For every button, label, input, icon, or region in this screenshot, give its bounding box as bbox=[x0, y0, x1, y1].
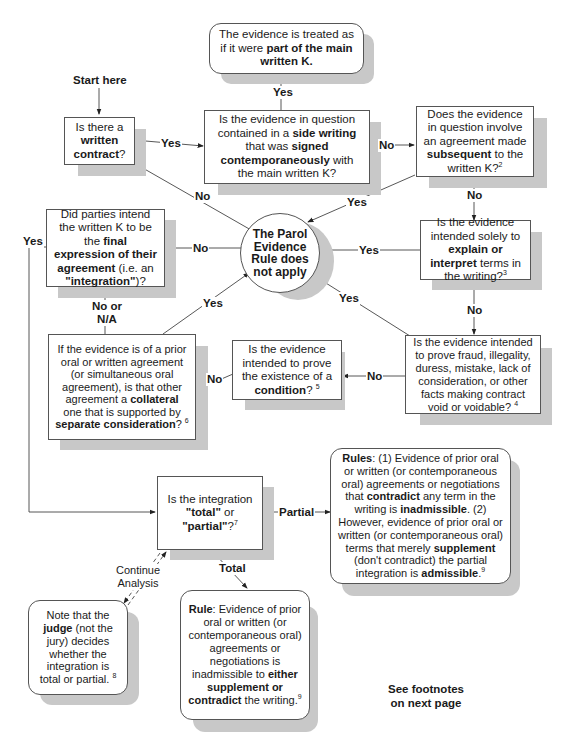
text-segment: Rules bbox=[342, 452, 372, 464]
node-condition[interactable]: Is the evidence intended to prove the ex… bbox=[232, 340, 342, 400]
text-segment: Does the evidence in question involve an… bbox=[424, 108, 527, 147]
node-side-writing-text: Is the evidence in question contained in… bbox=[211, 113, 363, 181]
text-segment: Note that the bbox=[47, 609, 110, 621]
text-segment: "integration" bbox=[65, 275, 135, 287]
text-segment: inadmissible bbox=[400, 503, 467, 515]
text-segment: "total" bbox=[186, 506, 221, 518]
node-collateral-text: If the evidence is of a prior oral or wr… bbox=[55, 343, 189, 431]
text-segment: condition bbox=[254, 384, 306, 396]
node-rule-total[interactable]: Rule: Evidence of prior oral or written … bbox=[180, 590, 310, 720]
node-total-partial-text: Is the integration "total" or "partial"?… bbox=[164, 493, 256, 534]
text-segment: supplement bbox=[434, 542, 496, 554]
text-segment: 7 bbox=[234, 519, 238, 526]
node-judge-note[interactable]: Note that the judge (not the jury) decid… bbox=[28, 600, 128, 695]
edge-label-collateral-no: No or N/A bbox=[88, 300, 126, 326]
text-segment: 5 bbox=[316, 383, 320, 390]
node-parol-rule-text: The Parol Evidence Rule does not apply bbox=[247, 228, 313, 278]
text-segment: separate consideration bbox=[55, 418, 175, 430]
edge-label-final-yes: Yes bbox=[22, 235, 44, 248]
text-segment: one that is supported by bbox=[63, 406, 180, 418]
text-segment: judge bbox=[43, 622, 72, 634]
text-segment: subsequent bbox=[427, 148, 492, 160]
edge-label-continue-analysis: Continue Analysis bbox=[115, 564, 161, 590]
text-segment: or bbox=[221, 506, 234, 518]
text-segment: ? bbox=[176, 418, 185, 430]
edge-label-final-no: No bbox=[192, 242, 209, 255]
text-segment: that was bbox=[245, 140, 291, 152]
text-segment: 6 bbox=[185, 418, 189, 425]
edge-label-collateral-yes: Yes bbox=[202, 297, 224, 310]
text-segment: (i.e. an bbox=[115, 262, 153, 274]
node-rule-total-text: Rule: Evidence of prior oral or written … bbox=[187, 603, 303, 707]
node-side-writing[interactable]: Is the evidence in question contained in… bbox=[204, 110, 370, 184]
start-label: Start here bbox=[72, 74, 128, 87]
node-written-contract-text: Is there a written contract? bbox=[71, 121, 128, 162]
node-rules-partial[interactable]: Rules: (1) Evidence of prior oral or wri… bbox=[330, 448, 511, 584]
node-part-of-main-text: The evidence is treated as if it were pa… bbox=[216, 28, 357, 69]
text-segment: admissible bbox=[421, 567, 478, 579]
text-segment: 3 bbox=[503, 269, 507, 276]
text-segment: part of the main written K. bbox=[260, 42, 352, 68]
text-segment: collateral bbox=[130, 393, 178, 405]
node-collateral[interactable]: If the evidence is of a prior oral or wr… bbox=[48, 334, 196, 440]
text-segment: ? bbox=[306, 384, 316, 396]
edge-label-fraud-no: No bbox=[366, 370, 383, 383]
node-explain-text: Is the evidence intended solely to expla… bbox=[427, 216, 524, 284]
text-segment: Is the integration bbox=[167, 493, 252, 505]
text-segment: the writing. bbox=[242, 694, 298, 706]
node-final-expression[interactable]: Did parties intend the written K to be t… bbox=[46, 209, 165, 287]
node-rules-partial-text: Rules: (1) Evidence of prior oral or wri… bbox=[337, 452, 504, 580]
node-parol-rule-not-apply[interactable]: The Parol Evidence Rule does not apply bbox=[240, 213, 320, 293]
text-segment: )? bbox=[136, 275, 146, 287]
node-explain[interactable]: Is the evidence intended solely to expla… bbox=[420, 220, 531, 280]
edge-label-side-yes: Yes bbox=[272, 86, 294, 99]
edge-label-partial: Partial bbox=[278, 506, 315, 519]
node-judge-note-text: Note that the judge (not the jury) decid… bbox=[35, 609, 121, 686]
text-segment: Is the evidence intended solely to bbox=[431, 216, 521, 242]
node-total-partial[interactable]: Is the integration "total" or "partial"?… bbox=[157, 476, 263, 550]
node-fraud[interactable]: Is the evidence intended to prove fraud,… bbox=[405, 335, 541, 414]
edge-label-sub-yes: Yes bbox=[346, 196, 368, 209]
text-segment: 8 bbox=[112, 672, 116, 679]
edge-label-cond-no: No bbox=[206, 373, 223, 386]
node-fraud-text: Is the evidence intended to prove fraud,… bbox=[412, 336, 534, 414]
edge-label-explain-yes: Yes bbox=[358, 244, 380, 257]
node-written-contract[interactable]: Is there a written contract? bbox=[64, 117, 135, 165]
text-segment: Is the evidence intended to prove the ex… bbox=[242, 343, 332, 382]
text-segment: 9 bbox=[481, 567, 485, 574]
footnote-reference: See footnotes on next page bbox=[385, 682, 467, 710]
edge-label-side-no: No bbox=[378, 139, 395, 152]
node-part-of-main[interactable]: The evidence is treated as if it were pa… bbox=[209, 23, 364, 74]
edge-label-wc-yes: Yes bbox=[160, 137, 182, 150]
text-segment: 9 bbox=[298, 693, 302, 700]
text-segment: 4 bbox=[514, 400, 518, 407]
edge-label-wc-no: No bbox=[194, 190, 211, 203]
node-final-expression-text: Did parties intend the written K to be t… bbox=[53, 208, 158, 289]
text-segment: Rule bbox=[189, 603, 213, 615]
text-segment: 2 bbox=[499, 161, 503, 168]
text-segment: "partial" bbox=[182, 520, 227, 532]
text-segment: side writing bbox=[292, 127, 356, 139]
edge-label-sub-no: No bbox=[466, 189, 483, 202]
node-subsequent-text: Does the evidence in question involve an… bbox=[423, 108, 527, 176]
edge-label-explain-no: No bbox=[466, 304, 483, 317]
node-condition-text: Is the evidence intended to prove the ex… bbox=[239, 343, 335, 397]
text-segment: contradict bbox=[367, 490, 420, 502]
node-subsequent[interactable]: Does the evidence in question involve an… bbox=[416, 106, 534, 177]
edge-label-total: Total bbox=[218, 562, 247, 575]
edge-label-fraud-yes: Yes bbox=[338, 292, 360, 305]
